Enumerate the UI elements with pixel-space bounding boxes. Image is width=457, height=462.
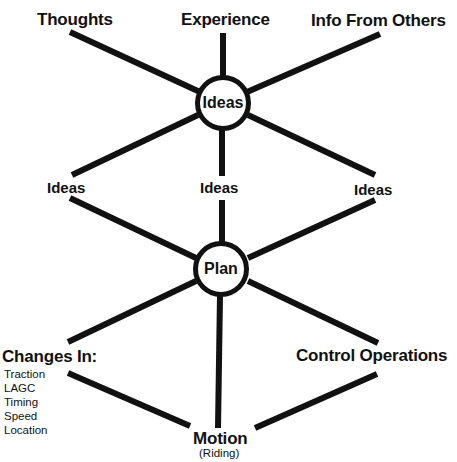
info-from-others-label: Info From Others — [311, 12, 446, 29]
line-changes-motion — [68, 373, 190, 426]
changes-item-traction: Traction — [4, 367, 47, 381]
changes-in-title: Changes In: — [2, 348, 97, 365]
plan-hub-label: Plan — [204, 260, 238, 278]
motion-label: Motion — [193, 430, 248, 447]
changes-item-speed: Speed — [4, 409, 47, 423]
thoughts-label: Thoughts — [37, 11, 113, 28]
line-ideas-left — [72, 115, 198, 175]
experience-label: Experience — [181, 11, 270, 28]
line-ideas-right — [248, 115, 375, 175]
ideas-hub-label: Ideas — [203, 94, 244, 112]
line-info-ideas — [247, 34, 380, 92]
changes-item-timing: Timing — [4, 395, 47, 409]
line-plan-control — [248, 281, 378, 343]
line-plan-motion — [218, 295, 220, 428]
changes-in-list: Traction LAGC Timing Speed Location — [4, 367, 47, 437]
ideas-center-label: Ideas — [200, 180, 238, 195]
line-left-plan — [70, 198, 196, 258]
ideas-right-label: Ideas — [354, 182, 392, 197]
changes-item-lagc: LAGC — [4, 381, 47, 395]
motion-sub-label: (Riding) — [199, 446, 239, 460]
control-operations-label: Control Operations — [296, 347, 447, 364]
ideas-left-label: Ideas — [47, 180, 85, 195]
line-plan-changes — [68, 281, 196, 342]
changes-item-location: Location — [4, 423, 47, 437]
ideas-hub-node: Ideas — [195, 75, 251, 131]
connector-lines — [0, 0, 457, 462]
line-thoughts-ideas — [70, 32, 200, 92]
plan-hub-node: Plan — [193, 241, 249, 297]
line-right-plan — [248, 200, 375, 258]
line-control-motion — [255, 374, 377, 428]
